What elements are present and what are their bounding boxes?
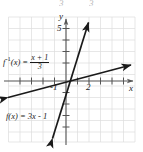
inverse-label-fraction: x + 1 3	[30, 54, 49, 72]
grid-lines	[9, 17, 136, 142]
inverse-function-graph-figure: 3 3	[0, 0, 143, 152]
graph-canvas	[0, 0, 143, 152]
inverse-label-denominator: 3	[30, 63, 49, 71]
x-tick-label-2: 2	[86, 83, 91, 92]
x-tick-label-neg1: -1	[50, 83, 58, 92]
y-axis-name: y	[59, 12, 63, 21]
x-axis-name: x	[129, 84, 133, 93]
inverse-label-arg: (x) =	[11, 57, 28, 67]
y-tick-label-5: 5	[57, 24, 62, 33]
function-equation-label: f(x) = 3x - 1	[6, 112, 47, 121]
inverse-function-equation-label: f-1(x) = x + 1 3	[3, 54, 49, 72]
